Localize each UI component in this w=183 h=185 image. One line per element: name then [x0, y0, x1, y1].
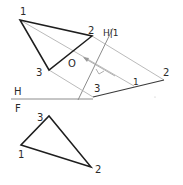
top-vertex-3-label: 3 [36, 67, 42, 78]
line-of-sight-label: O [68, 58, 76, 69]
hf-upper-label: H [14, 86, 22, 97]
front-vertex-3-label: 3 [37, 112, 43, 123]
aux-vertex-3-label: 3 [94, 83, 100, 94]
hf-lower-label: F [15, 103, 21, 114]
arrow-head-icon [83, 57, 89, 62]
projector-2 [92, 36, 164, 80]
h1-label: H|1 [103, 28, 119, 38]
right-angle-mark-icon [96, 69, 104, 74]
front-view-triangle [21, 116, 91, 167]
top-view-triangle [20, 20, 92, 70]
top-vertex-2-label: 2 [88, 25, 94, 36]
aux-vertex-2-label: 2 [163, 67, 169, 78]
aux-vertex-1-label: 1 [133, 77, 139, 87]
top-vertex-1-label: 1 [20, 6, 26, 17]
speck [154, 96, 155, 97]
front-vertex-1-label: 1 [18, 149, 24, 160]
descriptive-geometry-drawing: H F H|1 O 1 2 3 1 2 3 1 2 3 [0, 0, 183, 185]
front-vertex-2-label: 2 [95, 164, 101, 175]
